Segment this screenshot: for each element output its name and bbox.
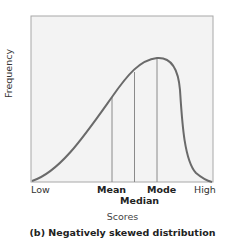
x-tick-mean: Mean	[97, 184, 126, 195]
x-tick-mode: Mode	[147, 184, 176, 195]
distribution-chart	[0, 0, 225, 244]
plot-area	[31, 16, 213, 182]
x-tick-high: High	[194, 184, 216, 195]
x-tick-median: Median	[120, 195, 159, 206]
x-axis-label: Scores	[0, 211, 225, 222]
y-axis-label: Frequency	[3, 49, 14, 98]
chart-caption: (b) Negatively skewed distribution	[0, 227, 225, 238]
x-tick-low: Low	[31, 184, 50, 195]
